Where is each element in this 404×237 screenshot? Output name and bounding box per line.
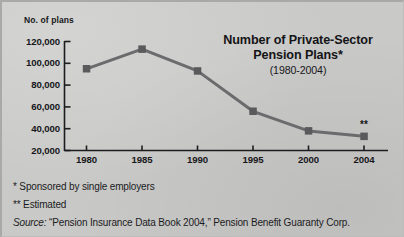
y-tick-labels: 120,000100,00080,00060,00040,00020,000: [10, 2, 60, 162]
data-point-marker: [360, 133, 368, 141]
y-tick-label: 100,000: [12, 57, 60, 68]
x-tick-label: 1980: [76, 154, 97, 165]
data-point-marker: [138, 45, 146, 53]
footnotes: * Sponsored by single employers ** Estim…: [13, 178, 403, 232]
data-point-marker: [83, 65, 91, 73]
estimated-marker: **: [360, 119, 368, 130]
x-tick-label: 1990: [187, 154, 208, 165]
y-tick-label: 80,000: [12, 79, 60, 90]
source-text: “Pension Insurance Data Book 2004,” Pens…: [46, 217, 349, 228]
y-tick-label: 60,000: [12, 101, 60, 112]
footnote-estimated: ** Estimated: [13, 196, 403, 214]
y-tick-marks: [65, 42, 71, 151]
chart-title: Number of Private-Sector Pension Plans*: [198, 33, 398, 62]
footnote-single-employers: * Sponsored by single employers: [13, 178, 403, 196]
source-label: Source:: [13, 217, 46, 228]
chart-subtitle: (1980-2004): [198, 64, 398, 76]
x-tick-label: 1985: [132, 154, 153, 165]
data-point-marker: [249, 108, 256, 116]
y-tick-label: 40,000: [12, 123, 60, 134]
chart-figure: No. of plans 120,000100,00080,00060,0004…: [0, 0, 404, 237]
y-tick-label: 20,000: [12, 145, 60, 156]
x-tick-label: 2004: [354, 154, 375, 165]
y-tick-label: 120,000: [12, 36, 60, 47]
data-point-marker: [305, 127, 313, 135]
x-tick-label: 2000: [298, 154, 319, 165]
series-line: [87, 49, 365, 136]
x-tick-label: 1995: [243, 154, 264, 165]
source-line: Source: “Pension Insurance Data Book 200…: [13, 214, 403, 232]
